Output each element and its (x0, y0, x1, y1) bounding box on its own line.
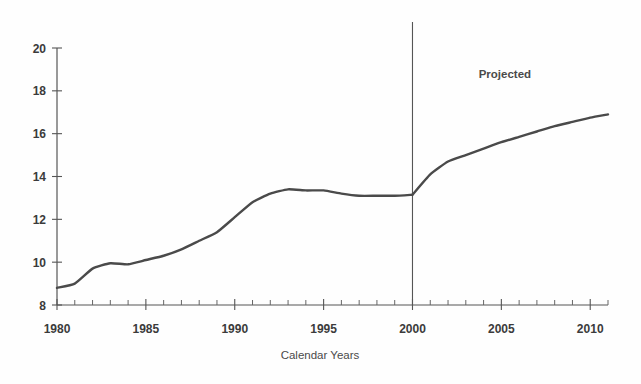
x-tick-label-2005: 2005 (488, 322, 515, 336)
y-tick-label-8: 8 (39, 299, 46, 313)
x-tick-label-1980: 1980 (44, 322, 71, 336)
y-tick-label-20: 20 (33, 42, 47, 56)
y-axis-tick-labels: 8101214161820 (33, 42, 47, 313)
line-chart: 8101214161820 19801985199019952000200520… (0, 0, 641, 384)
y-tick-label-16: 16 (33, 127, 47, 141)
x-axis-tick-labels: 1980198519901995200020052010 (44, 322, 604, 336)
data-line-projected (412, 114, 608, 194)
annotation-projected: Projected (479, 68, 531, 80)
y-tick-label-18: 18 (33, 84, 47, 98)
y-tick-label-12: 12 (33, 213, 47, 227)
x-tick-label-1995: 1995 (310, 322, 337, 336)
x-axis-minor-ticks (75, 300, 608, 305)
x-tick-label-2010: 2010 (577, 322, 604, 336)
x-tick-label-1985: 1985 (133, 322, 160, 336)
y-tick-label-14: 14 (33, 170, 47, 184)
x-tick-label-2000: 2000 (399, 322, 426, 336)
data-line-historical (57, 189, 412, 288)
data-series-group (57, 114, 608, 287)
x-tick-label-1990: 1990 (221, 322, 248, 336)
y-tick-label-10: 10 (33, 256, 47, 270)
x-axis-title: Calendar Years (281, 349, 360, 361)
chart-container: 8101214161820 19801985199019952000200520… (0, 0, 641, 384)
chart-annotations: Projected (479, 68, 531, 80)
